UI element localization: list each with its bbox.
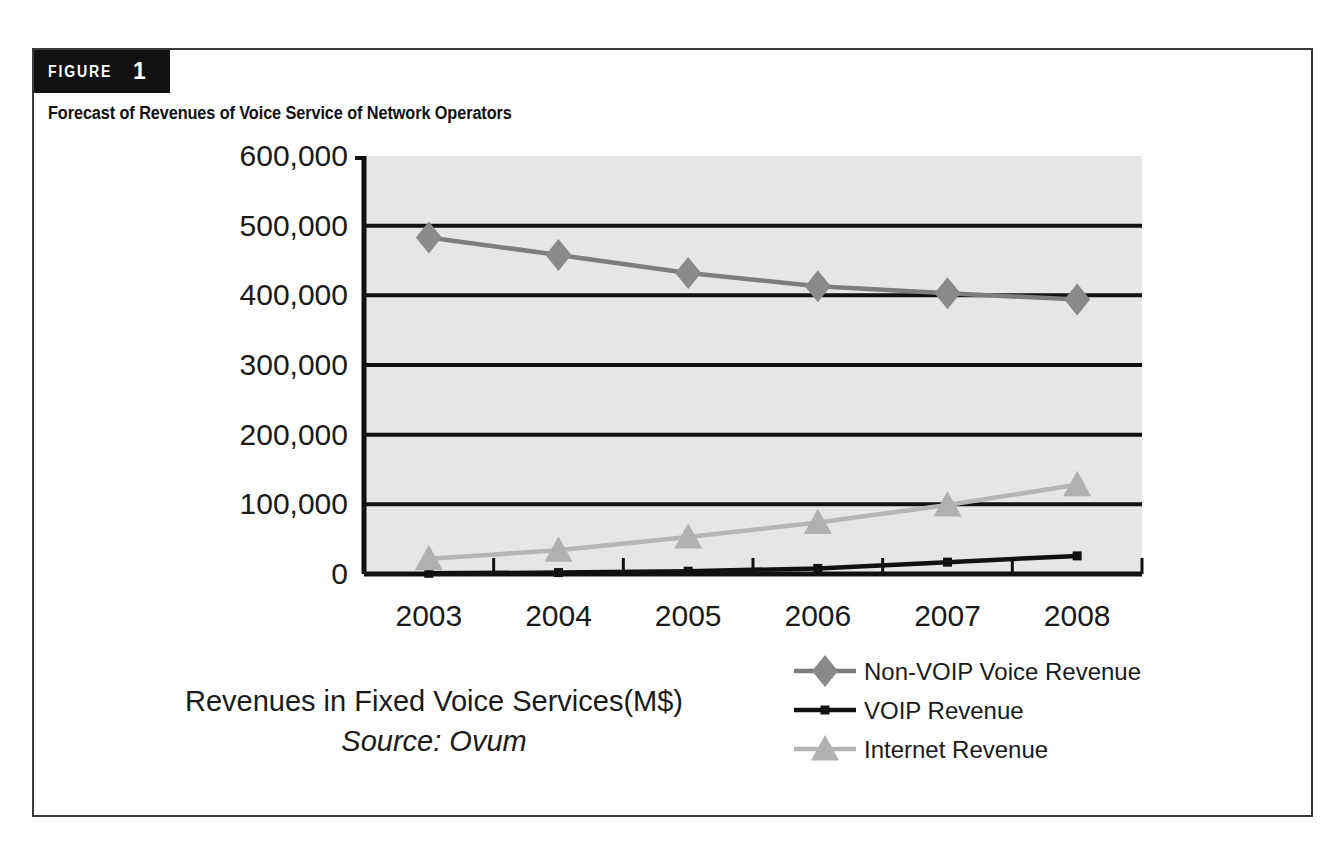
figure-frame: FIGURE 1 Forecast of Revenues of Voice S… bbox=[32, 48, 1313, 817]
y-axis bbox=[355, 156, 364, 574]
line-chart: 0100,000200,000300,000400,000500,000600,… bbox=[34, 138, 1311, 815]
legend-item[interactable]: Internet Revenue bbox=[794, 735, 1048, 763]
source-caption: Source: Ovum bbox=[341, 725, 526, 757]
data-point-square bbox=[554, 568, 563, 577]
x-tick-labels: 200320042005200620072008 bbox=[395, 599, 1110, 632]
y-tick-label: 500,000 bbox=[240, 209, 348, 242]
chart-legend: Non-VOIP Voice RevenueVOIP RevenueIntern… bbox=[794, 655, 1141, 763]
y-tick-label: 600,000 bbox=[240, 139, 348, 172]
y-tick-label: 400,000 bbox=[240, 278, 348, 311]
data-point-square bbox=[943, 558, 952, 567]
x-tick-label: 2003 bbox=[395, 599, 462, 632]
x-tick-label: 2006 bbox=[784, 599, 851, 632]
figure-badge-word: FIGURE bbox=[48, 63, 112, 81]
figure-title: Forecast of Revenues of Voice Service of… bbox=[48, 103, 512, 124]
data-point-square bbox=[813, 564, 822, 573]
x-tick-label: 2008 bbox=[1044, 599, 1111, 632]
x-tick-label: 2005 bbox=[655, 599, 722, 632]
figure-badge: FIGURE 1 bbox=[34, 50, 170, 93]
data-point-square bbox=[684, 567, 693, 576]
data-point-diamond bbox=[812, 655, 838, 687]
data-point-square bbox=[821, 706, 830, 715]
legend-item[interactable]: VOIP Revenue bbox=[794, 697, 1024, 724]
legend-label: Internet Revenue bbox=[864, 736, 1048, 763]
x-tick-label: 2004 bbox=[525, 599, 592, 632]
legend-label: VOIP Revenue bbox=[864, 697, 1024, 724]
chart-captions: Revenues in Fixed Voice Services(M$)Sour… bbox=[185, 685, 683, 757]
figure-badge-number: 1 bbox=[133, 60, 146, 83]
y-tick-label: 0 bbox=[331, 557, 348, 590]
y-tick-labels: 0100,000200,000300,000400,000500,000600,… bbox=[240, 139, 348, 590]
legend-item[interactable]: Non-VOIP Voice Revenue bbox=[794, 655, 1141, 687]
y-tick-label: 300,000 bbox=[240, 348, 348, 381]
y-tick-label: 200,000 bbox=[240, 418, 348, 451]
legend-label: Non-VOIP Voice Revenue bbox=[864, 658, 1141, 685]
data-point-square bbox=[1073, 551, 1082, 560]
chart-svg: 0100,000200,000300,000400,000500,000600,… bbox=[34, 138, 1311, 815]
x-axis-caption: Revenues in Fixed Voice Services(M$) bbox=[185, 685, 683, 717]
x-tick-label: 2007 bbox=[914, 599, 981, 632]
y-tick-label: 100,000 bbox=[240, 487, 348, 520]
